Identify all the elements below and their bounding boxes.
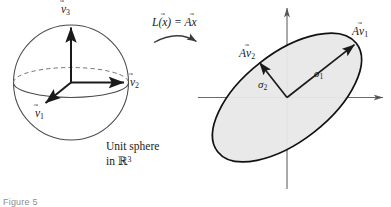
transformation-label: L(x⃗) = Ax⃗ [152,16,197,28]
figure-canvas [0,0,391,207]
unit-sphere-caption-line2: in ℝ3 [106,154,159,169]
unit-sphere-caption-line1: Unit sphere [106,139,159,154]
vector-v1-arrow [46,83,72,104]
vector-v3-label: v⃗3 [61,3,70,17]
sigma2-label: σ2 [258,79,267,92]
equator-front-arc [14,83,129,98]
transformation-arrow-group [154,36,197,43]
figure-root: v⃗3 v⃗2 v⃗1 Unit sphere in ℝ3 L(x⃗) = Ax… [0,0,391,207]
sigma1-label: σ1 [314,68,323,81]
vector-Av2-label: Av⃗2 [239,47,255,61]
vector-Av1-label: Av⃗1 [352,25,368,39]
vector-v1-label: v⃗1 [35,107,44,121]
curved-map-arrow [154,36,197,43]
figure-caption: Figure 5 [3,197,38,207]
unit-sphere-caption: Unit sphere in ℝ3 [106,139,159,168]
real-numbers-symbol: ℝ [118,154,128,168]
unit-sphere-group [14,25,129,140]
vector-v2-label: v⃗2 [130,76,139,90]
